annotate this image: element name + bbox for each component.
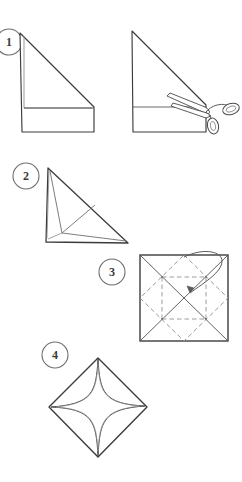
step-2-badge-label: 2	[23, 169, 29, 183]
instruction-sheet: 1	[0, 0, 242, 482]
folded-triangle-figure	[20, 33, 94, 132]
step-1-badge-label: 1	[6, 35, 12, 49]
crease-point-c	[161, 318, 163, 320]
folded-triangle-outline	[20, 33, 94, 132]
crease-point-a	[161, 276, 163, 278]
triangle-with-scissors-figure	[132, 31, 241, 135]
step-3-badge-label: 3	[109, 265, 115, 279]
scissors-pivot	[206, 110, 209, 113]
cut-triangle-outline	[132, 31, 206, 132]
trimmed-triangle-outline	[46, 168, 128, 243]
step-1-group: 1	[0, 29, 241, 135]
trimmed-triangle-figure	[46, 168, 128, 243]
crease-point-b	[205, 276, 207, 278]
step-4-group: 4	[42, 342, 147, 457]
step-2-badge: 2	[13, 163, 39, 189]
step-1-badge: 1	[0, 29, 22, 55]
step-3-badge: 3	[99, 259, 125, 285]
step-2-group: 2	[13, 163, 128, 243]
scissors-lower-handle	[206, 115, 220, 135]
step-3-group: 3	[99, 251, 228, 341]
step-4-badge-label: 4	[52, 348, 58, 362]
crease-point-d	[205, 318, 207, 320]
scissors-upper-handle	[208, 101, 241, 117]
star-diamond-figure	[49, 358, 147, 457]
creased-square-figure	[140, 251, 228, 341]
step-4-badge: 4	[42, 342, 68, 368]
origami-instruction-diagram: 1	[0, 0, 242, 482]
